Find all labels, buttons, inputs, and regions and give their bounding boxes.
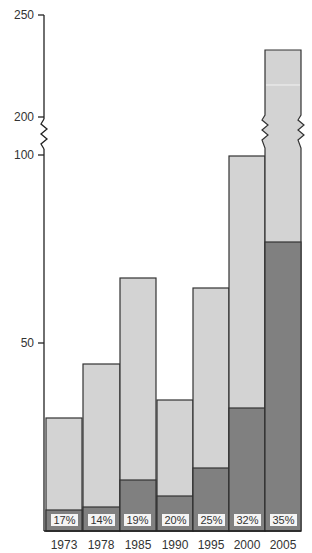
x-label-1973: 1973 (46, 538, 82, 552)
pct-label-1973: 17% (51, 514, 78, 526)
bar-2005-dark (265, 242, 301, 531)
pct-label-1995: 25% (198, 514, 225, 526)
y-tick-200: 200 (2, 110, 34, 124)
bar-2005 (262, 50, 304, 531)
bar-2000-dark (229, 408, 265, 531)
pct-label-2005: 35% (270, 514, 297, 526)
pct-label-1978: 14% (88, 514, 115, 526)
x-label-2005: 2005 (265, 538, 301, 552)
axis-break-icon (41, 119, 47, 149)
x-label-1990: 1990 (157, 538, 193, 552)
y-tick-100: 100 (2, 148, 34, 162)
x-label-1978: 1978 (83, 538, 119, 552)
pct-label-1985: 19% (124, 514, 151, 526)
bar-1978-light (83, 364, 120, 531)
y-tick-50: 50 (2, 336, 34, 350)
y-tick-250: 250 (2, 8, 34, 22)
pct-label-1990: 20% (162, 514, 189, 526)
x-label-1995: 1995 (193, 538, 229, 552)
pct-label-2000: 32% (234, 514, 261, 526)
stacked-bar-chart (0, 0, 312, 553)
x-label-2000: 2000 (229, 538, 265, 552)
x-label-1985: 1985 (120, 538, 156, 552)
bars (46, 156, 265, 531)
